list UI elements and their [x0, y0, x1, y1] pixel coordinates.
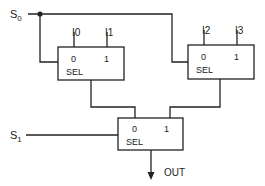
s0-label: S0 [10, 8, 22, 23]
mux-c-port0: 0 [132, 124, 137, 134]
output-arrow-icon [148, 172, 155, 180]
mux-a-output-wire [91, 80, 135, 118]
mux-c-port1: 1 [164, 124, 169, 134]
i0-label: I0 [72, 27, 81, 38]
mux-b-output-wire [170, 79, 220, 118]
mux-b-port0: 0 [201, 52, 206, 62]
mux-c-sel: SEL [126, 137, 143, 147]
mux-b-port1: 1 [234, 52, 239, 62]
i2-label: I2 [202, 25, 211, 36]
output-label: OUT [164, 167, 185, 178]
s1-label: S1 [10, 129, 22, 144]
mux-a-port1: 1 [104, 54, 109, 64]
mux-b-sel: SEL [196, 65, 213, 75]
mux-diagram: S0 I0 I1 0 1 SEL I2 I3 0 1 SEL S1 0 1 SE… [0, 0, 265, 186]
mux-a-port0: 0 [71, 54, 76, 64]
mux-a-sel: SEL [66, 67, 83, 77]
s0-branch-wire [40, 14, 58, 62]
i1-label: I1 [105, 27, 114, 38]
i3-label: I3 [235, 25, 244, 36]
